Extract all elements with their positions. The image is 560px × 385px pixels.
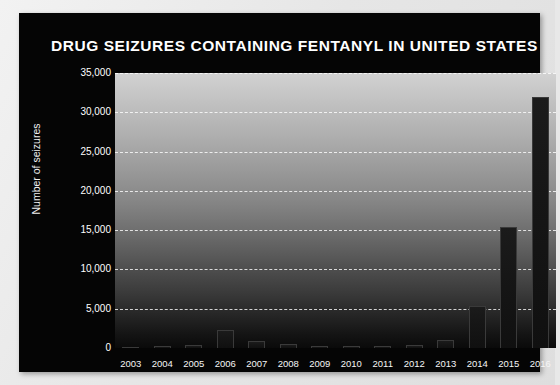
y-tick-label: 20,000 — [41, 185, 111, 196]
y-tick-label: 25,000 — [41, 146, 111, 157]
bar[interactable] — [154, 346, 171, 348]
x-tick-label: 2016 — [520, 358, 560, 369]
y-tick-label: 35,000 — [41, 67, 111, 78]
bar[interactable] — [122, 347, 139, 348]
gridline — [115, 230, 556, 231]
gridline — [115, 112, 556, 113]
chart-card: DRUG SEIZURES CONTAINING FENTANYL IN UNI… — [19, 13, 540, 372]
gridline — [115, 309, 556, 310]
y-tick-label: 0 — [41, 342, 111, 353]
bar[interactable] — [343, 346, 360, 348]
gridline — [115, 269, 556, 270]
bar[interactable] — [532, 97, 549, 348]
bar[interactable] — [280, 344, 297, 348]
y-tick-label: 30,000 — [41, 106, 111, 117]
bar[interactable] — [406, 345, 423, 348]
y-tick-label: 10,000 — [41, 263, 111, 274]
bar[interactable] — [248, 341, 265, 348]
plot-area — [115, 73, 556, 348]
bar[interactable] — [217, 330, 234, 348]
gridline — [115, 191, 556, 192]
gridline — [115, 152, 556, 153]
x-axis-tick-labels: 2003200420052006200720082009201020112012… — [115, 353, 556, 369]
bar[interactable] — [311, 346, 328, 348]
chart-title: DRUG SEIZURES CONTAINING FENTANYL IN UNI… — [51, 37, 521, 55]
bar[interactable] — [374, 346, 391, 348]
y-axis-tick-labels: 05,00010,00015,00020,00025,00030,00035,0… — [19, 73, 115, 353]
bar[interactable] — [500, 227, 517, 348]
bar[interactable] — [437, 340, 454, 348]
y-tick-label: 15,000 — [41, 224, 111, 235]
gridline — [115, 73, 556, 74]
bar[interactable] — [185, 345, 202, 348]
bar[interactable] — [469, 306, 486, 348]
y-tick-label: 5,000 — [41, 303, 111, 314]
